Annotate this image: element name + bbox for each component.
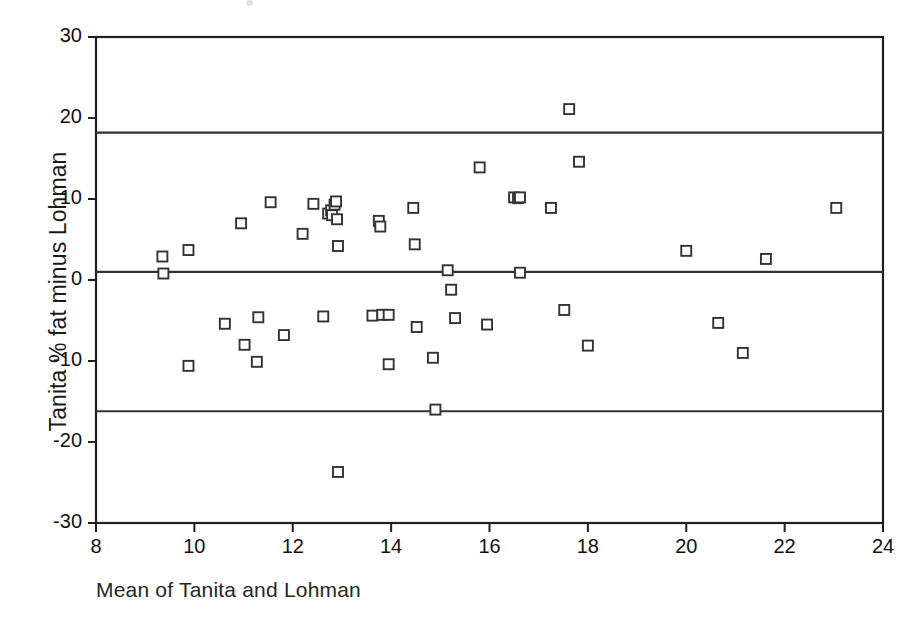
x-axis-tick-label: 10: [164, 535, 224, 558]
data-point: [253, 312, 263, 322]
plot-frame: [96, 37, 883, 523]
x-axis-tick-label: 8: [66, 535, 126, 558]
data-point: [158, 269, 168, 279]
data-point: [331, 196, 341, 206]
data-point: [157, 252, 167, 262]
data-point: [443, 265, 453, 275]
data-point: [564, 104, 574, 114]
bland-altman-scatter-plot: Tanita % fat minus Lohman Mean of Tanita…: [0, 0, 908, 632]
data-point: [574, 157, 584, 167]
x-axis-tick-label: 12: [263, 535, 323, 558]
data-point: [408, 203, 418, 213]
data-point: [367, 311, 377, 321]
scan-artifact: [246, 0, 253, 6]
data-point: [475, 162, 485, 172]
y-axis-tick-label: -30: [24, 510, 82, 533]
data-point: [279, 330, 289, 340]
data-point: [333, 241, 343, 251]
data-point: [761, 254, 771, 264]
data-point: [410, 239, 420, 249]
y-axis-tick-label: 20: [24, 105, 82, 128]
data-point: [333, 467, 343, 477]
data-point: [412, 322, 422, 332]
data-point: [183, 245, 193, 255]
data-point: [236, 218, 246, 228]
data-point: [446, 285, 456, 295]
data-point: [266, 197, 276, 207]
data-point: [318, 311, 328, 321]
data-point: [240, 340, 250, 350]
data-point: [298, 229, 308, 239]
x-axis-title: Mean of Tanita and Lohman: [96, 578, 361, 602]
x-axis-tick-label: 22: [755, 535, 815, 558]
data-point: [559, 305, 569, 315]
x-axis-tick-label: 24: [853, 535, 908, 558]
x-axis-tick-label: 14: [361, 535, 421, 558]
y-axis-tick-label: 30: [24, 24, 82, 47]
data-point: [515, 192, 525, 202]
data-point: [332, 214, 342, 224]
data-point: [515, 268, 525, 278]
data-point: [450, 313, 460, 323]
y-axis-tick-label: 10: [24, 186, 82, 209]
data-point: [681, 246, 691, 256]
data-point: [713, 318, 723, 328]
data-point-series: [157, 104, 841, 477]
data-point: [482, 320, 492, 330]
data-point: [252, 357, 262, 367]
data-point: [428, 353, 438, 363]
y-axis-tick-label: -20: [24, 429, 82, 452]
data-point: [831, 203, 841, 213]
data-point: [183, 361, 193, 371]
data-point: [384, 310, 394, 320]
data-point: [220, 319, 230, 329]
y-axis-tick-label: 0: [24, 267, 82, 290]
data-point: [430, 405, 440, 415]
data-point: [738, 348, 748, 358]
data-point: [583, 341, 593, 351]
y-axis-tick-label: -10: [24, 348, 82, 371]
data-point: [375, 222, 385, 232]
data-point: [384, 359, 394, 369]
data-point: [308, 199, 318, 209]
x-axis-tick-label: 18: [558, 535, 618, 558]
x-axis-tick-label: 16: [460, 535, 520, 558]
x-axis-tick-label: 20: [656, 535, 716, 558]
data-point: [546, 203, 556, 213]
